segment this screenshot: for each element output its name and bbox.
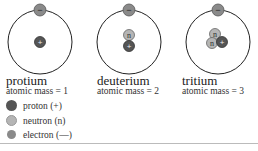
legend-label: proton (+) <box>23 101 62 111</box>
atom-mass-deuterium: atomic mass = 2 <box>97 86 159 96</box>
svg-text:−: − <box>215 5 220 15</box>
electron-icon <box>7 130 16 139</box>
atom-deuterium: − n + <box>97 4 161 74</box>
divider <box>0 143 258 144</box>
proton-icon <box>6 100 17 111</box>
legend-label: neutron (n) <box>23 116 65 126</box>
proton-icon: + <box>124 41 135 52</box>
proton-icon: + <box>217 37 228 48</box>
atom-mass-protium: atomic mass = 1 <box>6 86 68 96</box>
neutron-icon: n <box>207 38 218 49</box>
svg-text:−: − <box>37 5 42 15</box>
legend-label: electron (—) <box>23 130 72 140</box>
atom-protium: − + <box>8 4 72 74</box>
atom-mass-tritium: atomic mass = 3 <box>182 86 244 96</box>
svg-text:+: + <box>38 38 43 47</box>
atom-tritium: − n n + <box>186 4 250 74</box>
neutron-icon: n <box>124 30 135 41</box>
legend-neutron: neutron (n) <box>6 114 65 127</box>
svg-text:+: + <box>220 38 225 47</box>
legend-electron: electron (—) <box>6 128 72 141</box>
electron-icon: − <box>34 4 46 16</box>
svg-text:n: n <box>210 39 214 48</box>
neutron-icon <box>6 115 17 126</box>
electron-icon: − <box>123 4 135 16</box>
svg-text:−: − <box>126 5 131 15</box>
electron-icon: − <box>212 4 224 16</box>
svg-text:+: + <box>127 42 132 51</box>
legend-proton: proton (+) <box>6 99 62 112</box>
proton-icon: + <box>35 37 46 48</box>
svg-text:n: n <box>127 31 131 40</box>
